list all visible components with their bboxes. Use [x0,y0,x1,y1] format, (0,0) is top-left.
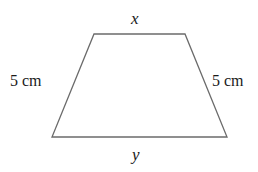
trapezoid-figure: x y 5 cm 5 cm [0,0,258,172]
side-label-bottom-y: y [132,146,140,163]
trapezoid-outline [52,34,227,137]
side-label-left-length: 5 cm [10,73,42,89]
side-label-top-x: x [131,10,139,27]
side-label-right-length: 5 cm [212,73,244,89]
